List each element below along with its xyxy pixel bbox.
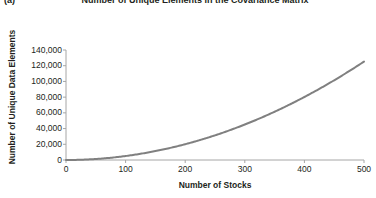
chart-figure: (a) Number of Unique Elements in the Cov… — [0, 0, 376, 198]
x-axis-tick-label: 300 — [225, 164, 265, 174]
data-series-line — [66, 62, 364, 160]
x-axis-tick-label: 0 — [46, 164, 86, 174]
x-axis-tick-label: 500 — [344, 164, 376, 174]
x-axis-tick-label: 400 — [284, 164, 324, 174]
x-axis-tick-labels: 0100200300400500 — [0, 164, 376, 176]
x-axis-tick-label: 200 — [165, 164, 205, 174]
x-axis-title: Number of Stocks — [66, 180, 364, 190]
x-axis-tick-label: 100 — [106, 164, 146, 174]
